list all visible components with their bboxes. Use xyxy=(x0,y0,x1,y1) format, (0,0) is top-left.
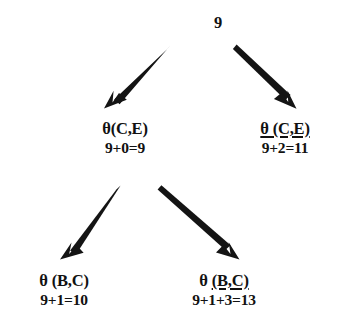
edge-shaft xyxy=(70,185,121,254)
tree-node-mid-left-label: θ(C,E) xyxy=(102,120,147,138)
tree-node-leaf-right-label-prefix: θ xyxy=(199,271,211,290)
tree-node-leaf-right-label-underlined: (B,C) xyxy=(212,271,249,290)
edge-shaft xyxy=(158,185,231,250)
tree-node-leaf-left-label: θ (B,C) xyxy=(39,272,88,290)
tree-node-mid-right[interactable]: θ (C,E) 9+2=11 xyxy=(260,120,309,157)
tree-node-leaf-left-cost: 9+1=10 xyxy=(39,291,88,308)
tree-node-leaf-right-cost: 9+1+3=13 xyxy=(192,291,256,308)
tree-node-mid-left[interactable]: θ(C,E) 9+0=9 xyxy=(102,120,147,157)
edge-shaft xyxy=(114,45,171,105)
tree-node-mid-left-cost: 9+0=9 xyxy=(102,139,147,156)
edge-root-to-mid-right xyxy=(233,44,297,108)
tree-node-root[interactable]: 9 xyxy=(214,14,222,32)
tree-node-leaf-left[interactable]: θ (B,C) 9+1=10 xyxy=(39,272,88,309)
tree-node-leaf-right-label: θ (B,C) xyxy=(192,272,256,290)
tree-node-leaf-right[interactable]: θ (B,C) 9+1+3=13 xyxy=(192,272,256,309)
tree-node-mid-right-cost: 9+2=11 xyxy=(260,139,309,156)
edge-shaft xyxy=(233,44,291,100)
tree-node-mid-right-label: θ (C,E) xyxy=(260,120,309,138)
edge-mid-left-to-leaf-left xyxy=(60,185,121,259)
diagram-canvas: 9 θ(C,E) 9+0=9 θ (C,E) 9+2=11 θ (B,C) 9+… xyxy=(0,0,337,329)
edge-root-to-mid-left xyxy=(104,45,171,109)
edge-mid-left-to-leaf-right xyxy=(158,185,240,259)
tree-node-root-label: 9 xyxy=(214,14,222,32)
